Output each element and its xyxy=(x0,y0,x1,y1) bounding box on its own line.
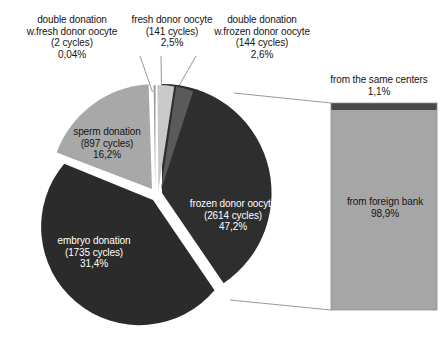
slice-label-double-donation-frozen: double donation w.frozen donor oocyte (1… xyxy=(196,14,328,60)
label-line: (144 cycles) xyxy=(196,37,328,49)
slice-label-sperm-donation: sperm donation (897 cycles) 16,2% xyxy=(52,126,162,161)
label-line: 1,1% xyxy=(316,86,442,98)
label-line: (1735 cycles) xyxy=(34,247,154,259)
label-line: embryo donation xyxy=(34,235,154,247)
label-line: 0,04% xyxy=(6,49,138,61)
label-line: double donation xyxy=(6,14,138,26)
label-line: 16,2% xyxy=(52,149,162,161)
slice-label-embryo-donation: embryo donation (1735 cycles) 31,4% xyxy=(34,235,154,270)
label-line: w.fresh donor oocyte xyxy=(6,26,138,38)
slice-label-double-donation-fresh: double donation w.fresh donor oocyte (2 … xyxy=(6,14,138,60)
label-line: frozen donor oocyte xyxy=(168,198,298,210)
label-line: (2614 cycles) xyxy=(168,210,298,222)
breakout-connector-bottom xyxy=(230,300,331,310)
label-line: from foreign bank xyxy=(334,196,436,208)
label-line: 47,2% xyxy=(168,221,298,233)
label-line: (2 cycles) xyxy=(6,37,138,49)
label-line: sperm donation xyxy=(52,126,162,138)
label-line: (897 cycles) xyxy=(52,138,162,150)
label-line: w.frozen donor oocyte xyxy=(196,26,328,38)
breakout-segment-from-same-centers[interactable] xyxy=(331,103,437,110)
label-line: 98,9% xyxy=(334,208,436,220)
label-line: double donation xyxy=(196,14,328,26)
label-line: 31,4% xyxy=(34,258,154,270)
breakout-label-from-foreign-bank: from foreign bank 98,9% xyxy=(334,196,436,219)
slice-label-frozen-donor-oocyte: frozen donor oocyte (2614 cycles) 47,2% xyxy=(168,198,298,233)
label-line: 2,6% xyxy=(196,49,328,61)
breakout-label-from-same-centers: from the same centers 1,1% xyxy=(316,74,442,97)
label-line: from the same centers xyxy=(316,74,442,86)
pie-chart-figure: double donation w.fresh donor oocyte (2 … xyxy=(0,0,448,343)
leader-line-fresh xyxy=(161,56,162,90)
